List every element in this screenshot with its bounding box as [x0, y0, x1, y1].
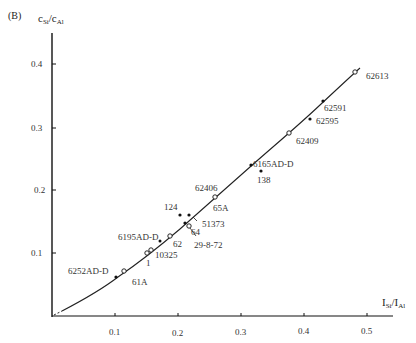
svg-text:10325: 10325 [155, 250, 178, 260]
svg-text:0.1: 0.1 [31, 248, 42, 258]
svg-text:0.1: 0.1 [109, 327, 120, 337]
svg-text:62591: 62591 [324, 103, 347, 113]
chart-canvas: (B) cSi/cAl 0.1 0.2 0.3 0.4 0.1 0.2 0.3 … [0, 0, 416, 343]
point-labels: 62613 62591 62595 62409 6165AD-D 138 624… [68, 71, 389, 287]
point-138 [259, 169, 262, 172]
svg-text:1: 1 [146, 258, 151, 268]
svg-text:124: 124 [164, 202, 178, 212]
svg-text:0.2: 0.2 [172, 328, 183, 338]
svg-text:0.3: 0.3 [31, 123, 43, 133]
point-62409 [287, 131, 291, 135]
panel-label: (B) [8, 10, 21, 22]
point-62406 [213, 195, 217, 199]
svg-text:29-8-72: 29-8-72 [194, 240, 223, 250]
point-6195AD-D [168, 234, 172, 238]
svg-text:62613: 62613 [366, 71, 389, 81]
svg-text:cSi/cAl: cSi/cAl [38, 12, 64, 26]
point-51373 [187, 213, 190, 216]
svg-text:65A: 65A [213, 203, 229, 213]
point-6252AD-D [114, 275, 117, 278]
svg-text:61A: 61A [132, 277, 148, 287]
svg-text:138: 138 [257, 175, 271, 185]
svg-text:6195AD-D: 6195AD-D [118, 232, 159, 242]
svg-text:62409: 62409 [296, 136, 319, 146]
svg-text:ISi/IAl: ISi/IAl [382, 296, 405, 310]
point-62613 [353, 70, 357, 74]
point-1 [145, 251, 149, 255]
x-axis-label: ISi/IAl [382, 296, 405, 310]
svg-text:64: 64 [191, 227, 201, 237]
svg-text:0.2: 0.2 [34, 185, 45, 195]
svg-text:0.5: 0.5 [361, 326, 373, 336]
point-62595 [308, 117, 311, 120]
svg-text:0.4: 0.4 [31, 59, 43, 69]
svg-text:0.4: 0.4 [298, 326, 310, 336]
calibration-curve [54, 311, 62, 315]
svg-text:51373: 51373 [202, 219, 225, 229]
svg-text:6165AD-D: 6165AD-D [253, 159, 294, 169]
point-61A [122, 269, 126, 273]
y-axis-label: cSi/cAl [38, 12, 64, 26]
point-29-8-72 [183, 221, 186, 224]
point-10325 [149, 248, 153, 252]
point-62 [159, 240, 162, 243]
svg-text:62: 62 [173, 239, 182, 249]
svg-text:6252AD-D: 6252AD-D [68, 266, 109, 276]
svg-text:62595: 62595 [316, 116, 339, 126]
svg-text:62406: 62406 [195, 183, 218, 193]
x-ticks: 0.1 0.2 0.3 0.4 0.5 [109, 313, 373, 338]
point-124 [178, 213, 181, 216]
data-points [114, 70, 357, 279]
svg-text:0.3: 0.3 [235, 327, 247, 337]
